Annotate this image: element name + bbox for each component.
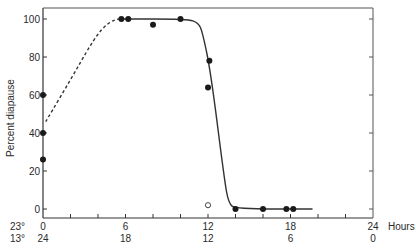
diapause-chart: 020406080100 0612182424181260 Percent di… bbox=[0, 0, 416, 250]
x-tick-label-top: 24 bbox=[367, 221, 379, 232]
y-axis-label: Percent diapause bbox=[5, 79, 16, 157]
data-point-filled bbox=[206, 58, 212, 64]
x-tick-label-bottom: 24 bbox=[37, 233, 49, 244]
y-tick-label: 0 bbox=[34, 204, 40, 215]
data-point-filled bbox=[260, 206, 266, 212]
data-point-open bbox=[205, 203, 210, 208]
dashed-curve bbox=[46, 19, 119, 122]
data-point-filled bbox=[118, 16, 124, 22]
solid-curve bbox=[119, 19, 313, 209]
data-point-filled bbox=[150, 22, 156, 28]
data-point-filled bbox=[40, 157, 46, 163]
data-point-filled bbox=[178, 16, 184, 22]
row-label-23deg: 23° bbox=[10, 221, 25, 232]
y-axis-ticks: 020406080100 bbox=[23, 14, 373, 215]
x-tick-label-top: 18 bbox=[285, 221, 297, 232]
y-tick-label: 40 bbox=[29, 128, 41, 139]
row-label-13deg: 13° bbox=[10, 233, 25, 244]
x-tick-label-top: 6 bbox=[123, 221, 129, 232]
data-points bbox=[40, 16, 296, 212]
x-tick-label-bottom: 6 bbox=[288, 233, 294, 244]
fitted-curves bbox=[46, 19, 313, 209]
data-point-filled bbox=[233, 206, 239, 212]
data-point-filled bbox=[40, 92, 46, 98]
data-point-filled bbox=[290, 206, 296, 212]
y-tick-label: 60 bbox=[29, 90, 41, 101]
y-tick-label: 100 bbox=[23, 14, 40, 25]
data-point-filled bbox=[283, 206, 289, 212]
data-point-filled bbox=[205, 84, 211, 90]
x-tick-label-bottom: 18 bbox=[120, 233, 132, 244]
x-tick-label-bottom: 12 bbox=[202, 233, 214, 244]
data-point-filled bbox=[40, 130, 46, 136]
data-point-filled bbox=[125, 16, 131, 22]
x-tick-label-bottom: 0 bbox=[370, 233, 376, 244]
x-axis-unit-label: Hours bbox=[388, 221, 415, 232]
y-tick-label: 20 bbox=[29, 166, 41, 177]
y-tick-label: 80 bbox=[29, 52, 41, 63]
plot-frame bbox=[43, 8, 373, 218]
x-tick-label-top: 12 bbox=[202, 221, 214, 232]
x-tick-label-top: 0 bbox=[40, 221, 46, 232]
